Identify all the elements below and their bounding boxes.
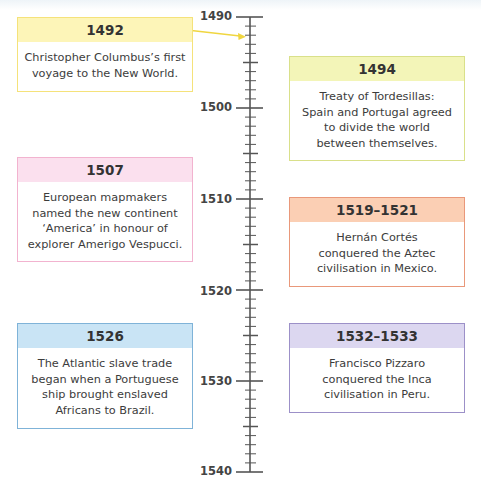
event-description: The Atlantic slave trade began when a Po… xyxy=(18,348,192,418)
event-date: 1519–1521 xyxy=(290,198,464,222)
year-label-1510: 1510 xyxy=(192,192,232,206)
event-date: 1532–1533 xyxy=(290,324,464,348)
event-card-1492: 1492 Christopher Columbus’s first voyage… xyxy=(17,17,193,92)
event-description: Hernán Cortés conquered the Aztec civili… xyxy=(290,222,464,277)
year-label-1530: 1530 xyxy=(192,374,232,388)
event-description: Francisco Pizzaro conquered the Inca civ… xyxy=(290,348,464,403)
year-label-1500: 1500 xyxy=(192,100,232,114)
event-date: 1526 xyxy=(18,324,192,348)
year-label-1490: 1490 xyxy=(192,9,232,23)
event-date: 1494 xyxy=(290,57,464,81)
timeline-ticks xyxy=(236,17,263,472)
event-card-1519-1521: 1519–1521 Hernán Cortés conquered the Az… xyxy=(289,197,465,287)
year-label-1520: 1520 xyxy=(192,284,232,298)
event-card-1526: 1526 The Atlantic slave trade began when… xyxy=(17,323,193,429)
event-card-1494: 1494 Treaty of Tordesillas: Spain and Po… xyxy=(289,56,465,161)
event-description: European mapmakers named the new contine… xyxy=(18,182,192,252)
event-description: Treaty of Tordesillas: Spain and Portuga… xyxy=(290,81,464,151)
event-card-1532-1533: 1532–1533 Francisco Pizzaro conquered th… xyxy=(289,323,465,413)
event-description: Christopher Columbus’s first voyage to t… xyxy=(18,42,192,81)
event-card-1507: 1507 European mapmakers named the new co… xyxy=(17,157,193,262)
event-date: 1492 xyxy=(18,18,192,42)
year-label-1540: 1540 xyxy=(192,464,232,478)
event-date: 1507 xyxy=(18,158,192,182)
